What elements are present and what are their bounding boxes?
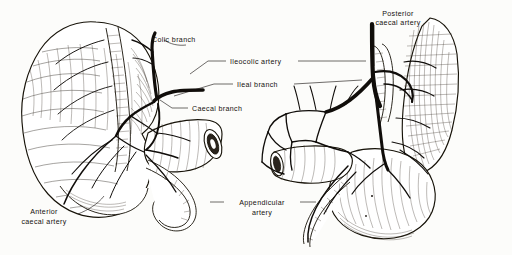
label-appendicular-line2: artery	[252, 209, 272, 217]
label-appendicular-line1: Appendicular	[239, 199, 285, 207]
label-caecal-branch: Caecal branch	[192, 105, 242, 113]
label-anterior-caecal-line1: Anterior	[30, 208, 58, 216]
caecum-mark-1	[371, 195, 373, 197]
label-anterior-caecal-line2: caecal artery	[21, 218, 66, 226]
label-colic-branch: Colic branch	[152, 36, 196, 44]
caecum-mark-2	[365, 215, 367, 217]
label-posterior-caecal-line1: Posterior	[382, 10, 414, 18]
label-ileocolic-artery: Ileocolic artery	[230, 58, 281, 66]
anatomical-plate: Colic branch Ileocolic artery Ileal bran…	[0, 0, 512, 255]
label-ileal-branch: Ileal branch	[237, 81, 278, 89]
label-posterior-caecal-line2: caecal artery	[375, 19, 420, 27]
